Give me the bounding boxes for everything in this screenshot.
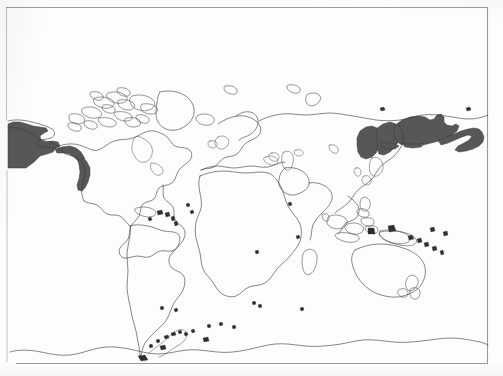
- map-background: [0, 0, 503, 376]
- world-map-graphic: [0, 0, 503, 376]
- coastline-south-georgia: [203, 337, 209, 342]
- range-region-connector-b: [402, 143, 424, 148]
- world-map-figure: Outline world map in equirectangular pro…: [0, 0, 503, 376]
- coastline-falkland-islands: [160, 345, 166, 350]
